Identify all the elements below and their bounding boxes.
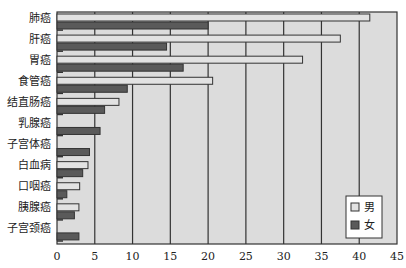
category-label: 胃癌 — [29, 53, 51, 67]
category-label: 白血病 — [18, 158, 51, 172]
bar-female — [57, 233, 79, 240]
category-label: 食管癌 — [18, 74, 51, 88]
bar-female — [57, 85, 127, 92]
bar-male — [57, 183, 80, 190]
x-tick-label: 10 — [126, 250, 140, 263]
x-tick-label: 5 — [91, 250, 98, 263]
x-tick-label: 15 — [163, 250, 177, 263]
bar-female — [57, 191, 67, 198]
category-label: 结直肠癌 — [7, 95, 51, 109]
x-tick-label: 20 — [201, 250, 215, 263]
bar-chart: 肺癌肝癌胃癌食管癌结直肠癌乳腺癌子宫体癌白血病口咽癌胰腺癌子宫颈癌 051015… — [0, 0, 406, 268]
x-tick-label: 35 — [314, 250, 328, 263]
x-tick-label: 45 — [390, 250, 404, 263]
bar-female — [57, 170, 83, 177]
bar-male — [57, 98, 119, 105]
category-label: 肺癌 — [29, 11, 51, 25]
bar-female — [57, 212, 74, 219]
bar-female — [57, 106, 105, 113]
category-label: 肝癌 — [29, 32, 51, 46]
legend-label: 女 — [364, 218, 375, 232]
bar-female — [57, 43, 167, 50]
bar-male — [57, 162, 88, 169]
bar-female — [57, 149, 89, 156]
bar-female — [57, 127, 100, 134]
category-label: 胰腺癌 — [18, 200, 51, 214]
category-label: 口咽癌 — [18, 179, 51, 193]
category-label: 子宫颈癌 — [7, 221, 51, 235]
bar-female — [57, 22, 208, 29]
legend-swatch-male — [351, 203, 359, 211]
bar-male — [57, 77, 213, 84]
legend-swatch-female — [351, 221, 359, 229]
bar-male — [57, 14, 370, 21]
x-tick-label: 30 — [277, 250, 291, 263]
legend-label: 男 — [364, 201, 375, 214]
x-tick-label: 25 — [239, 250, 253, 263]
bar-male — [57, 35, 340, 42]
category-label: 子宫体癌 — [7, 137, 51, 151]
bar-female — [57, 64, 183, 71]
bar-male — [57, 56, 303, 63]
x-tick-label: 40 — [352, 250, 366, 263]
x-tick-label: 0 — [54, 250, 61, 263]
category-label: 乳腺癌 — [18, 116, 51, 130]
bar-male — [57, 204, 79, 211]
